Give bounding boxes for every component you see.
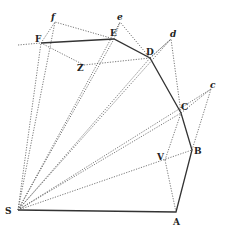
label-C: C xyxy=(181,102,188,112)
label-D: D xyxy=(146,47,154,57)
orbit-polygon xyxy=(18,39,192,212)
label-V: V xyxy=(156,152,165,162)
label-S: S xyxy=(5,206,12,216)
label-d: d xyxy=(170,29,177,39)
label-A: A xyxy=(172,217,181,227)
label-B: B xyxy=(194,146,202,156)
geometric-diagram: S A B V C c D d E e F f Z xyxy=(0,0,226,231)
label-E: E xyxy=(110,28,117,38)
label-e: e xyxy=(117,12,123,22)
label-f: f xyxy=(50,12,57,22)
label-c: c xyxy=(210,80,216,90)
label-F: F xyxy=(35,34,42,44)
label-Z: Z xyxy=(77,63,84,73)
point-labels: S A B V C c D d E e F f Z xyxy=(5,12,216,227)
